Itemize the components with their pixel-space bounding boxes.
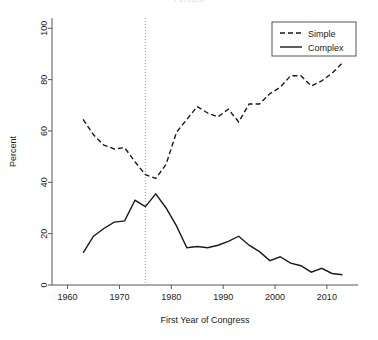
y-axis-title: Percent [8, 135, 18, 167]
x-axis-title: First Year of Congress [160, 315, 250, 325]
x-tick-label-1970: 1970 [109, 292, 129, 302]
y-tick-label-80: 80 [39, 75, 49, 85]
series-line-complex [83, 194, 342, 275]
x-tick-label-2010: 2010 [317, 292, 337, 302]
x-axis-tick-labels: 196019701980199020002010 [58, 292, 337, 302]
y-tick-label-0: 0 [39, 282, 49, 287]
x-tick-label-1990: 1990 [213, 292, 233, 302]
chart-svg: 020406080100 196019701980199020002010 Pe… [0, 0, 378, 340]
x-tick-label-1960: 1960 [58, 292, 78, 302]
chart-legend[interactable]: Simple Complex [272, 22, 356, 56]
x-tick-label-2000: 2000 [265, 292, 285, 302]
y-tick-label-40: 40 [39, 177, 49, 187]
x-axis-tickmarks [68, 285, 327, 289]
y-axis-tick-labels: 020406080100 [39, 21, 49, 288]
y-tick-label-60: 60 [39, 126, 49, 136]
chart-figure: Percent 020406080100 1960197019801990200… [0, 0, 378, 340]
legend-label-complex: Complex [308, 43, 344, 53]
y-axis-tickmarks [48, 28, 52, 285]
series-line-simple [83, 63, 342, 179]
y-tick-label-20: 20 [39, 229, 49, 239]
legend-label-simple: Simple [308, 29, 336, 39]
x-tick-label-1980: 1980 [161, 292, 181, 302]
y-tick-label-100: 100 [39, 21, 49, 36]
